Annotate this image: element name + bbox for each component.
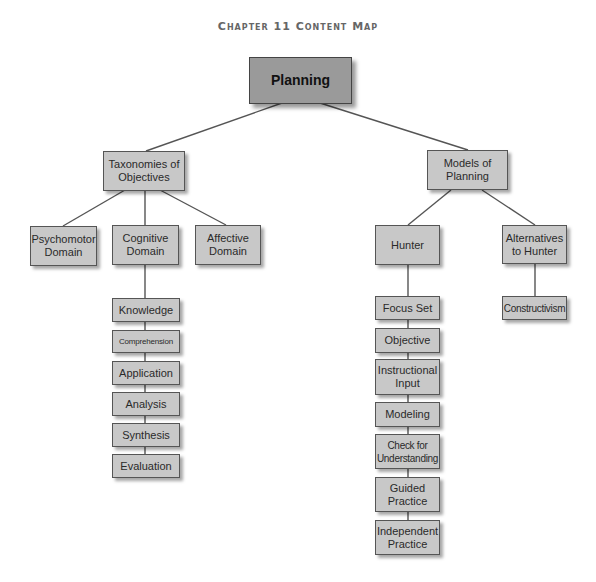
node-application: Application: [112, 361, 180, 385]
node-instructional-input: Instructional Input: [375, 359, 440, 395]
node-models-of-planning: Models of Planning: [427, 150, 508, 190]
node-objective: Objective: [375, 328, 440, 353]
node-psychomotor-domain: Psychomotor Domain: [30, 226, 97, 266]
node-check-for-understanding: Check for Understanding: [375, 434, 440, 469]
node-constructivism: Constructivism: [502, 296, 567, 320]
node-hunter: Hunter: [375, 225, 440, 265]
node-cognitive-domain: Cognitive Domain: [112, 225, 179, 265]
node-affective-domain: Affective Domain: [195, 225, 261, 265]
node-knowledge: Knowledge: [112, 298, 180, 322]
node-guided-practice: Guided Practice: [375, 477, 440, 512]
node-alternatives-to-hunter: Alternatives to Hunter: [502, 225, 567, 264]
node-taxonomies-of-objectives: Taxonomies of Objectives: [103, 151, 185, 191]
node-comprehension: Comprehension: [112, 330, 180, 353]
node-analysis: Analysis: [112, 392, 180, 416]
node-synthesis: Synthesis: [112, 423, 180, 447]
node-evaluation: Evaluation: [112, 454, 180, 478]
node-planning: Planning: [249, 57, 352, 104]
node-focus-set: Focus Set: [375, 296, 440, 320]
node-modeling: Modeling: [375, 402, 440, 427]
node-independent-practice: Independent Practice: [375, 520, 440, 555]
